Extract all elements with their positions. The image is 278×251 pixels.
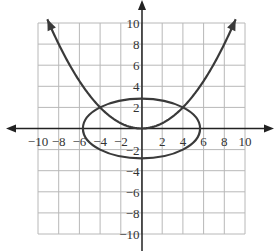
y-tick-label: −2 [126,143,140,158]
y-tick-label: −6 [126,185,140,200]
x-tick-labels: −10−8−6−4−2246810 [28,134,252,149]
y-tick-label: −8 [126,206,140,221]
x-axis-right-arrow-icon [264,125,274,133]
y-tick-label: −10 [119,227,139,242]
x-tick-label: 8 [221,134,228,149]
y-tick-label: 6 [133,58,140,73]
y-tick-label: 2 [133,100,140,115]
y-tick-label: 10 [127,16,140,31]
x-tick-label: 4 [180,134,187,149]
y-tick-label: −4 [126,164,140,179]
x-tick-label: −8 [52,134,66,149]
x-tick-label: 6 [200,134,207,149]
x-tick-label: 10 [239,134,252,149]
x-tick-label: −10 [28,134,48,149]
x-tick-label: 2 [159,134,166,149]
parabola-right-arrow-icon [227,19,236,31]
graph: −10−8−6−4−2246810 108642−2−4−6−8−10 [0,0,278,251]
x-axis-left-arrow-icon [6,125,16,133]
y-axis-up-arrow-icon [138,0,146,10]
y-tick-label: 4 [133,79,140,94]
y-tick-label: 8 [133,37,140,52]
parabola-left-arrow-icon [47,19,56,31]
